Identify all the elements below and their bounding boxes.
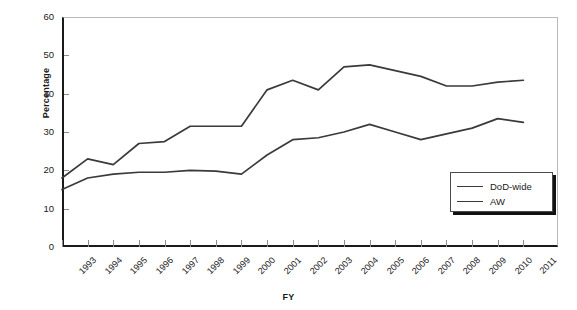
x-tick-mark: [472, 240, 473, 247]
x-tick-mark: [523, 240, 524, 247]
x-tick-mark: [370, 240, 371, 247]
x-tick-mark: [395, 240, 396, 247]
x-tick-mark: [62, 240, 63, 247]
x-tick-mark: [113, 240, 114, 247]
y-tick-label: 30: [14, 126, 54, 137]
x-tick-label: 2008: [461, 255, 482, 276]
plot-area: [62, 17, 558, 247]
x-tick-mark: [216, 240, 217, 247]
y-tick-label: 50: [14, 49, 54, 60]
x-tick-mark: [498, 240, 499, 247]
x-tick-mark: [293, 240, 294, 247]
x-tick-mark: [344, 240, 345, 247]
x-tick-label: 2003: [333, 255, 354, 276]
x-tick-label: 2000: [256, 255, 277, 276]
x-tick-mark: [190, 240, 191, 247]
legend-swatch-icon: [457, 201, 483, 202]
x-tick-label: 1993: [77, 255, 98, 276]
x-tick-label: 2011: [538, 255, 559, 276]
x-tick-label: 1996: [154, 255, 175, 276]
x-axis-title: FY: [0, 292, 577, 302]
x-tick-label: 1997: [179, 255, 200, 276]
x-tick-label: 2002: [308, 255, 329, 276]
y-tick-label: 20: [14, 164, 54, 175]
chart-legend: DoD-wide AW: [450, 172, 553, 212]
x-tick-label: 2006: [410, 255, 431, 276]
legend-label: DoD-wide: [490, 181, 532, 192]
x-tick-label: 2010: [513, 255, 534, 276]
y-tick-label: 0: [14, 241, 54, 252]
legend-item-aw: AW: [457, 194, 505, 208]
x-tick-mark: [446, 240, 447, 247]
x-tick-mark: [267, 240, 268, 247]
x-tick-label: 2005: [384, 255, 405, 276]
x-tick-mark: [88, 240, 89, 247]
line-chart: Percentage 0102030405060 199319941995199…: [0, 0, 577, 310]
y-tick-label: 10: [14, 203, 54, 214]
legend-item-dod-wide: DoD-wide: [457, 179, 532, 193]
x-tick-label: 1995: [128, 255, 149, 276]
x-tick-mark: [318, 240, 319, 247]
x-tick-mark: [241, 240, 242, 247]
legend-label: AW: [490, 196, 505, 207]
x-tick-mark: [139, 240, 140, 247]
x-tick-label: 1994: [102, 255, 123, 276]
legend-swatch-icon: [457, 186, 483, 187]
x-tick-label: 2004: [359, 255, 380, 276]
x-tick-mark: [421, 240, 422, 247]
x-tick-mark: [165, 240, 166, 247]
x-tick-label: 1998: [205, 255, 226, 276]
y-tick-label: 40: [14, 88, 54, 99]
y-tick-label: 60: [14, 11, 54, 22]
x-tick-label: 2001: [282, 255, 303, 276]
x-tick-label: 1999: [231, 255, 252, 276]
x-tick-label: 2009: [487, 255, 508, 276]
x-tick-label: 2007: [436, 255, 457, 276]
